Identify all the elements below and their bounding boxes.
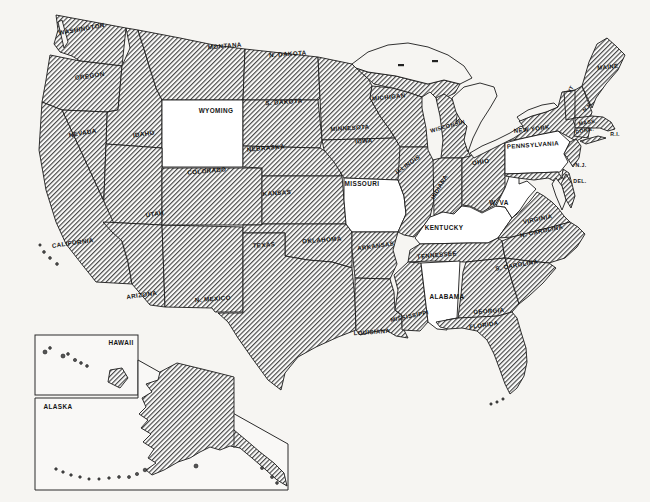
label-alabama: ALABAMA (429, 293, 464, 300)
state-maine (582, 38, 625, 108)
label-missouri: MISSOURI (345, 180, 380, 187)
state-vermont (564, 90, 576, 120)
label-kentucky: KENTUCKY (425, 224, 464, 231)
label-hawaii: HAWAII (108, 339, 133, 346)
label-alaska: ALASKA (43, 403, 72, 410)
label-wyoming: WYOMING (199, 107, 234, 114)
us-states-hatched-map: WASHINGTONOREGONCALIFORNIANEVADAIDAHOMON… (0, 0, 650, 502)
state-arkansas (352, 232, 398, 279)
isle-royale (398, 64, 404, 66)
florida-keys (490, 398, 504, 405)
label-rhode-island: R.I. (610, 131, 620, 137)
label-iowa: IOWA (355, 137, 373, 144)
state-kansas (262, 176, 346, 224)
label-new-jersey: N.J. (575, 162, 586, 168)
label-delaware: DEL. (573, 178, 587, 184)
state-colorado (162, 168, 262, 225)
state-south-dakota (243, 100, 322, 148)
superior-island (432, 60, 438, 62)
map-canvas: WASHINGTONOREGONCALIFORNIANEVADAIDAHOMON… (0, 0, 650, 502)
label-west-virginia: W. VA (489, 199, 509, 206)
label-louisiana: LOUISIANA (353, 328, 390, 337)
